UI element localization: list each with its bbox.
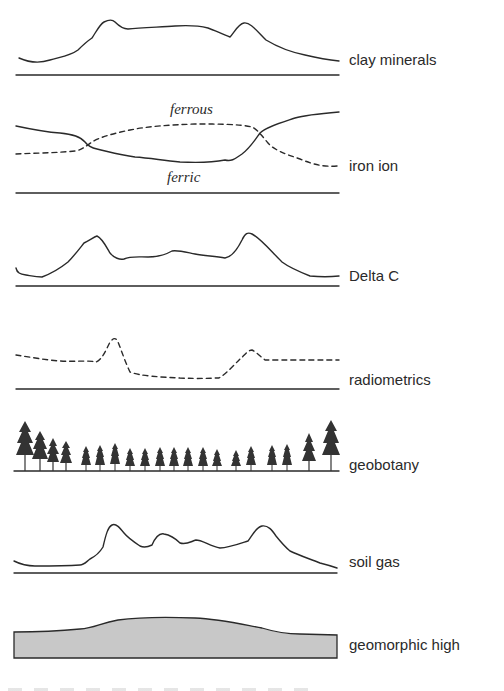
tree-icon	[282, 444, 292, 471]
tree-icon	[155, 447, 165, 471]
label-delta-c: Delta C	[349, 267, 399, 284]
tree-icon	[212, 449, 222, 471]
geomorphic-high-shape	[14, 617, 337, 658]
clay-minerals-curve	[19, 20, 339, 62]
soil-gas-curve	[14, 525, 337, 568]
tree-icon	[198, 447, 208, 471]
anomaly-profiles-diagram	[0, 0, 504, 691]
delta-c-curve	[16, 233, 339, 277]
annotation-ferrous: ferrous	[170, 101, 213, 118]
tree-icon	[32, 431, 48, 471]
tree-icon	[140, 448, 150, 471]
tree-icon	[246, 446, 256, 471]
geobotany-trees	[16, 420, 340, 471]
tree-icon	[231, 450, 241, 471]
tree-icon	[322, 420, 340, 471]
label-geobotany: geobotany	[349, 456, 419, 473]
label-radiometrics: radiometrics	[349, 371, 431, 388]
label-soil-gas: soil gas	[349, 553, 400, 570]
iron-ion-ferric-curve	[16, 112, 339, 162]
tree-icon	[183, 447, 193, 471]
tree-icon	[95, 445, 105, 471]
tree-icon	[125, 448, 135, 471]
label-clay-minerals: clay minerals	[349, 51, 437, 68]
label-geomorphic-high: geomorphic high	[349, 636, 460, 653]
iron-ion-ferrous-curve	[16, 124, 337, 166]
label-iron-ion: iron ion	[349, 157, 398, 174]
tree-icon	[110, 443, 120, 471]
tree-icon	[47, 438, 59, 471]
radiometrics-curve	[16, 339, 339, 379]
tree-icon	[302, 433, 316, 471]
tree-icon	[16, 421, 34, 471]
tree-icon	[81, 446, 91, 471]
annotation-ferric: ferric	[167, 169, 200, 186]
tree-icon	[267, 445, 277, 471]
tree-icon	[60, 441, 72, 471]
tree-icon	[169, 447, 179, 471]
